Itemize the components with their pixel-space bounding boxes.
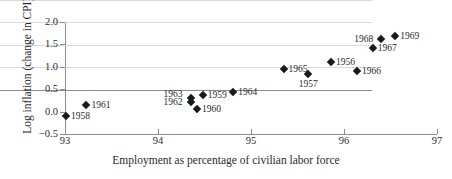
x-tick-mark: [158, 129, 159, 134]
gridline: [0, 0, 372, 1]
y-tick-mark: [60, 67, 65, 68]
y-tick-mark: [60, 44, 65, 45]
data-point-label: 1960: [202, 105, 221, 115]
x-tick-label: 96: [324, 136, 364, 147]
x-tick-mark: [251, 129, 252, 134]
y-axis-title: Log inflation (change in CPI): [22, 0, 34, 146]
data-point-label: 1967: [378, 44, 397, 54]
data-point-label: 1958: [71, 112, 90, 122]
scatter-plot-figure: −0.50.00.51.01.52.0 9394959697 195819611…: [0, 0, 452, 179]
y-tick-mark: [60, 89, 65, 90]
data-point-label: 1969: [400, 32, 419, 42]
x-tick-label: 94: [138, 136, 178, 147]
x-tick-mark: [437, 129, 438, 134]
x-tick-label: 93: [45, 136, 85, 147]
data-point-label: 1964: [238, 88, 257, 98]
data-point-label: 1956: [336, 58, 355, 68]
x-tick-mark: [344, 129, 345, 134]
data-point-label: 1963: [164, 90, 183, 100]
x-tick-label: 95: [231, 136, 271, 147]
data-point-label: 1959: [208, 91, 227, 101]
data-point-label: 1966: [362, 67, 381, 77]
x-axis-title: Employment as percentage of civilian lab…: [0, 155, 452, 167]
data-point-label: 1957: [299, 80, 318, 90]
x-tick-mark: [65, 129, 66, 134]
data-point-label: 1968: [354, 35, 373, 45]
y-tick-mark: [60, 22, 65, 23]
data-point-label: 1961: [91, 101, 110, 111]
x-tick-label: 97: [417, 136, 452, 147]
